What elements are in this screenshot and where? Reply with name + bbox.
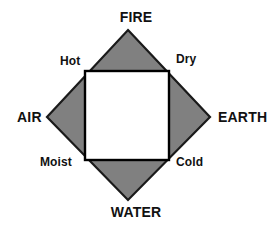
element-label-air: AIR (17, 110, 42, 124)
quality-label-moist: Moist (40, 156, 72, 168)
element-label-water: WATER (0, 205, 272, 219)
quality-label-dry: Dry (176, 53, 196, 65)
element-label-fire: FIRE (0, 10, 272, 24)
quality-label-hot: Hot (60, 55, 80, 67)
element-label-earth: EARTH (218, 110, 267, 124)
inner-square-shape (85, 71, 169, 160)
quality-label-cold: Cold (176, 156, 203, 168)
four-elements-diagram: FIRE AIR EARTH WATER Hot Dry Moist Cold (0, 0, 272, 230)
